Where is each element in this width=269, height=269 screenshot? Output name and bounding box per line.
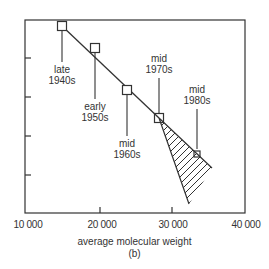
label-line: mid [143, 53, 175, 64]
marker-mid-1960s [123, 86, 132, 95]
y-ticks [25, 58, 31, 175]
label-line: 1940s [46, 75, 78, 86]
x-tick-label-10000: 10 000 [14, 219, 43, 230]
x-ticks [100, 207, 172, 213]
label-line: 1960s [111, 149, 143, 160]
label-line: 1970s [143, 64, 175, 75]
label-mid-1980s: mid 1980s [181, 84, 213, 106]
x-tick-label-20000: 20 000 [88, 219, 117, 230]
figure-caption: (b) [0, 248, 269, 259]
label-line: 1980s [181, 95, 213, 106]
label-late-1940s: late 1940s [46, 64, 78, 86]
label-line: 1950s [79, 112, 111, 123]
label-mid-1970s: mid 1970s [143, 53, 175, 75]
label-early-1950s: early 1950s [79, 101, 111, 123]
label-mid-1960s: mid 1960s [111, 138, 143, 160]
x-tick-label-30000: 30 000 [159, 219, 188, 230]
label-line: late [46, 64, 78, 75]
x-axis-title: average molecular weight [0, 236, 269, 247]
plot-frame [25, 20, 245, 213]
label-line: mid [181, 84, 213, 95]
marker-early-1950s [91, 44, 100, 53]
label-line: early [79, 101, 111, 112]
marker-late-1940s [58, 22, 67, 31]
x-tick-label-40000: 40 000 [232, 219, 261, 230]
label-line: mid [111, 138, 143, 149]
